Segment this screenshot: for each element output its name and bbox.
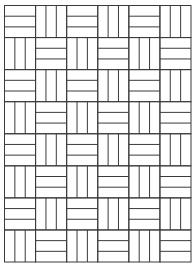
weave-cell-vertical [160, 70, 191, 102]
weave-cell-horizontal [160, 230, 191, 262]
weave-cell-horizontal [5, 198, 36, 230]
cell-border [129, 134, 160, 166]
cell-border [67, 102, 98, 134]
cell-border [98, 38, 129, 70]
weave-cell-horizontal [129, 198, 160, 230]
cell-border [5, 38, 36, 70]
cell-border [5, 166, 36, 198]
cell-border [36, 70, 67, 102]
cell-border [5, 230, 36, 262]
cell-border [129, 102, 160, 134]
cell-border [36, 38, 67, 70]
cell-border [98, 6, 129, 38]
weave-cell-horizontal [67, 70, 98, 102]
cell-border [36, 166, 67, 198]
cell-border [36, 198, 67, 230]
cell-border [160, 134, 191, 166]
weave-cell-vertical [67, 38, 98, 70]
weave-cell-vertical [98, 70, 129, 102]
weave-cell-vertical [129, 166, 160, 198]
cell-border [36, 6, 67, 38]
cell-border [160, 198, 191, 230]
cell-border [67, 166, 98, 198]
weave-cell-vertical [36, 134, 67, 166]
weave-cell-vertical [98, 6, 129, 38]
basketweave-pattern [0, 0, 193, 271]
weave-cell-horizontal [5, 134, 36, 166]
weave-cell-horizontal [160, 38, 191, 70]
weave-cell-vertical [67, 230, 98, 262]
cell-border [67, 134, 98, 166]
cell-border [160, 102, 191, 134]
cell-border [67, 70, 98, 102]
weave-cell-vertical [36, 70, 67, 102]
weave-cell-horizontal [98, 102, 129, 134]
weave-cell-horizontal [67, 134, 98, 166]
weave-cell-horizontal [160, 166, 191, 198]
cell-border [36, 230, 67, 262]
cell-border [5, 198, 36, 230]
cell-border [67, 230, 98, 262]
cell-border [98, 166, 129, 198]
cell-border [5, 6, 36, 38]
cell-border [67, 6, 98, 38]
weave-cell-vertical [67, 102, 98, 134]
weave-cell-horizontal [129, 70, 160, 102]
cell-border [67, 38, 98, 70]
cell-border [160, 230, 191, 262]
cell-border [160, 166, 191, 198]
weave-cell-horizontal [67, 6, 98, 38]
weave-cell-horizontal [67, 198, 98, 230]
weave-cell-horizontal [5, 6, 36, 38]
weave-cell-horizontal [36, 166, 67, 198]
cell-border [129, 166, 160, 198]
weave-cell-vertical [98, 134, 129, 166]
cell-border [129, 198, 160, 230]
cell-border [129, 6, 160, 38]
cell-border [160, 38, 191, 70]
cell-border [67, 198, 98, 230]
cell-border [129, 38, 160, 70]
cell-border [98, 198, 129, 230]
cell-border [36, 134, 67, 166]
weave-cell-horizontal [98, 166, 129, 198]
cell-border [98, 70, 129, 102]
weave-cell-vertical [5, 230, 36, 262]
weave-cell-vertical [36, 6, 67, 38]
weave-cell-vertical [160, 134, 191, 166]
weave-cell-vertical [5, 166, 36, 198]
cell-border [129, 230, 160, 262]
cell-border [129, 70, 160, 102]
cell-border [5, 102, 36, 134]
cell-border [36, 102, 67, 134]
weave-cell-horizontal [160, 102, 191, 134]
weave-cell-vertical [129, 38, 160, 70]
cell-border [98, 102, 129, 134]
weave-cell-vertical [160, 6, 191, 38]
weave-cell-vertical [67, 166, 98, 198]
cell-border [160, 70, 191, 102]
cell-border [5, 134, 36, 166]
weave-cell-horizontal [36, 38, 67, 70]
weave-cell-horizontal [129, 134, 160, 166]
weave-cell-vertical [98, 198, 129, 230]
weave-cell-vertical [36, 198, 67, 230]
cell-border [160, 6, 191, 38]
cell-border [98, 230, 129, 262]
weave-cell-horizontal [5, 70, 36, 102]
weave-cell-horizontal [98, 230, 129, 262]
weave-cell-vertical [160, 198, 191, 230]
weave-cell-vertical [129, 102, 160, 134]
weave-cell-horizontal [98, 38, 129, 70]
weave-cell-vertical [5, 102, 36, 134]
weave-cell-vertical [129, 230, 160, 262]
weave-cell-horizontal [129, 6, 160, 38]
weave-cell-horizontal [36, 102, 67, 134]
cell-border [5, 70, 36, 102]
weave-cell-vertical [5, 38, 36, 70]
weave-cell-horizontal [36, 230, 67, 262]
cell-border [98, 134, 129, 166]
